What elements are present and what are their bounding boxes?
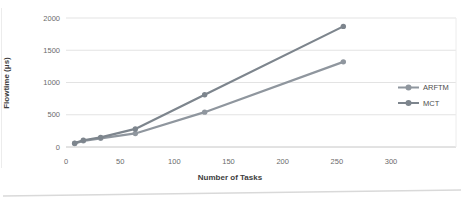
data-point-ARFTM-128 [202,109,207,114]
x-tick-300: 300 [385,157,398,166]
series-line-MCT [75,26,344,143]
y-axis-tick-labels: 0500100015002000 [43,14,60,152]
data-point-MCT-256 [341,24,346,29]
y-tick-0: 0 [56,143,60,152]
legend-marker-MCT [406,100,412,106]
x-tick-100: 100 [168,157,181,166]
legend: ARFTMMCT [398,83,449,108]
data-point-MCT-32 [98,135,103,140]
x-tick-250: 250 [331,157,344,166]
y-tick-2000: 2000 [43,14,60,23]
series-lines [72,24,346,146]
legend-marker-ARFTM [406,85,412,91]
flowtime-line-chart: 0500100015002000 050100150200250300 Flow… [0,0,464,201]
y-tick-1000: 1000 [43,78,60,87]
data-point-MCT-8 [72,140,77,145]
legend-item-MCT: MCT [398,99,440,108]
x-tick-150: 150 [222,157,235,166]
data-point-MCT-16 [81,138,86,143]
chart-figure: 0500100015002000 050100150200250300 Flow… [0,0,464,201]
y-axis-label: Flowtime (μs) [2,57,11,109]
series-line-ARFTM [75,62,344,144]
scan-artifact-line [3,190,461,196]
data-point-ARFTM-256 [341,59,346,64]
x-axis-tick-labels: 050100150200250300 [64,157,397,166]
x-tick-0: 0 [64,157,68,166]
data-point-MCT-64 [133,126,138,131]
legend-label-MCT: MCT [423,99,440,108]
gridlines [66,18,456,147]
x-axis-label: Number of Tasks [198,173,263,182]
data-point-MCT-128 [202,92,207,97]
y-tick-500: 500 [47,110,60,119]
x-tick-200: 200 [276,157,289,166]
legend-item-ARFTM: ARFTM [398,83,449,92]
y-tick-1500: 1500 [43,46,60,55]
legend-label-ARFTM: ARFTM [423,83,449,92]
x-tick-50: 50 [116,157,124,166]
